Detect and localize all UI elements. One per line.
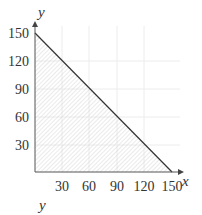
svg-text:150: 150 [8, 26, 29, 41]
y-axis-label: y [36, 4, 45, 20]
svg-text:90: 90 [110, 179, 124, 194]
x-tick-labels: 30 60 90 120 150 [55, 179, 183, 194]
svg-text:30: 30 [15, 138, 29, 153]
svg-text:30: 30 [55, 179, 69, 194]
svg-text:150: 150 [162, 179, 183, 194]
y-tick-labels: 150 120 90 60 30 [8, 26, 29, 153]
svg-text:120: 120 [8, 54, 29, 69]
svg-text:120: 120 [134, 179, 155, 194]
svg-text:60: 60 [15, 110, 29, 125]
chart: y x y 150 120 90 60 30 30 60 90 120 150 [0, 0, 202, 215]
caption-label: y [37, 197, 46, 213]
svg-text:90: 90 [15, 82, 29, 97]
svg-text:60: 60 [82, 179, 96, 194]
